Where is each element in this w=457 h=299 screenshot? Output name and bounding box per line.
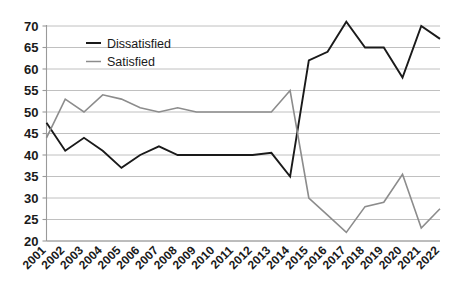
gridlines	[47, 26, 441, 241]
y-tick-labels: 2025303540455055606570	[24, 19, 38, 249]
y-axis	[43, 25, 47, 241]
y-tick-label: 25	[24, 212, 38, 227]
line-chart: 2025303540455055606570 20012002200320042…	[0, 0, 457, 299]
data-series	[47, 22, 441, 233]
y-tick-label: 35	[24, 169, 38, 184]
chart-legend: DissatisfiedSatisfied	[86, 37, 171, 70]
x-tick-labels: 2001200220032004200520062007200820092010…	[20, 243, 443, 272]
y-tick-label: 40	[24, 148, 38, 163]
y-tick-label: 50	[24, 105, 38, 120]
legend-label-satisfied: Satisfied	[107, 55, 155, 69]
y-tick-label: 30	[24, 191, 38, 206]
legend-label-dissatisfied: Dissatisfied	[107, 37, 171, 51]
series-line-dissatisfied	[47, 22, 441, 177]
y-tick-label: 65	[24, 40, 38, 55]
y-tick-label: 70	[24, 19, 38, 34]
y-tick-label: 55	[24, 83, 38, 98]
y-tick-label: 60	[24, 62, 38, 77]
x-tick-label: 2022	[413, 243, 442, 272]
chart-canvas: 2025303540455055606570 20012002200320042…	[0, 0, 457, 299]
y-tick-label: 45	[24, 126, 38, 141]
